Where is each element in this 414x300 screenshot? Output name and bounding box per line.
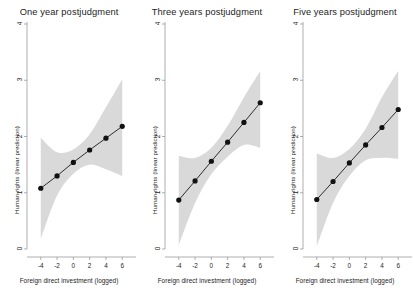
y-axis-label: Human rights (linear prediction): [289, 126, 296, 214]
chart-panel: Five years postjudgment01234-4-20246Huma…: [276, 0, 414, 300]
data-point-marker: [71, 160, 76, 165]
y-axis-label: Human rights (linear prediction): [151, 126, 158, 214]
x-tick-label: 4: [99, 262, 113, 269]
data-point-marker: [54, 173, 59, 178]
plot-area: [138, 0, 276, 300]
data-point-marker: [209, 159, 214, 164]
x-tick-label: 0: [342, 262, 356, 269]
x-tick-label: -4: [34, 262, 48, 269]
data-point-marker: [120, 124, 125, 129]
x-tick-label: 6: [391, 262, 405, 269]
y-tick-label: 4: [292, 19, 299, 29]
x-tick-label: 6: [115, 262, 129, 269]
x-tick-label: 4: [375, 262, 389, 269]
y-axis-label: Human rights (linear prediction): [13, 126, 20, 214]
confidence-band: [41, 79, 122, 239]
chart-panel: Three years postjudgment01234-4-20246Hum…: [138, 0, 276, 300]
data-point-marker: [363, 142, 368, 147]
x-tick-label: -4: [310, 262, 324, 269]
x-tick-label: 4: [237, 262, 251, 269]
y-tick-label: 0: [292, 244, 299, 254]
data-point-marker: [103, 136, 108, 141]
data-point-marker: [241, 120, 246, 125]
y-tick-label: 0: [16, 244, 23, 254]
data-point-marker: [347, 160, 352, 165]
confidence-band: [317, 71, 398, 247]
y-tick-label: 3: [292, 75, 299, 85]
y-tick-label: 3: [154, 75, 161, 85]
data-point-marker: [396, 107, 401, 112]
confidence-band: [179, 71, 260, 245]
prediction-line: [179, 103, 260, 200]
chart-panel: One year postjudgment01234-4-20246Human …: [0, 0, 138, 300]
x-tick-label: -2: [188, 262, 202, 269]
data-point-marker: [379, 125, 384, 130]
x-axis-label: Foreign direct investment (logged): [276, 277, 414, 284]
data-point-marker: [258, 100, 263, 105]
y-tick-label: 4: [154, 19, 161, 29]
data-point-marker: [38, 186, 43, 191]
x-tick-label: -2: [326, 262, 340, 269]
x-axis-label: Foreign direct investment (logged): [0, 277, 138, 284]
data-point-marker: [225, 140, 230, 145]
data-point-marker: [192, 178, 197, 183]
data-point-marker: [314, 197, 319, 202]
plot-area: [0, 0, 138, 300]
x-tick-label: -2: [50, 262, 64, 269]
y-tick-label: 3: [16, 75, 23, 85]
data-point-marker: [330, 179, 335, 184]
x-tick-label: -4: [172, 262, 186, 269]
x-tick-label: 0: [66, 262, 80, 269]
x-tick-label: 2: [83, 262, 97, 269]
figure-canvas: One year postjudgment01234-4-20246Human …: [0, 0, 414, 300]
y-tick-label: 0: [154, 244, 161, 254]
x-tick-label: 2: [359, 262, 373, 269]
data-point-marker: [87, 147, 92, 152]
data-point-marker: [176, 197, 181, 202]
x-axis-label: Foreign direct investment (logged): [138, 277, 276, 284]
y-tick-label: 4: [16, 19, 23, 29]
x-tick-label: 2: [221, 262, 235, 269]
plot-area: [276, 0, 414, 300]
x-tick-label: 0: [204, 262, 218, 269]
x-tick-label: 6: [253, 262, 267, 269]
